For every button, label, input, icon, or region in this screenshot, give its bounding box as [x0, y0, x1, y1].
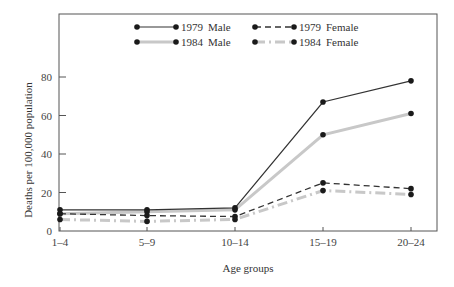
legend-sex: Male — [208, 21, 231, 33]
legend-year: 1979 — [299, 21, 322, 33]
series-line-1979-male — [60, 81, 411, 210]
line-chart: 020406080 1–45–910–1415–1920–24 1979Male… — [0, 0, 454, 287]
x-tick-label: 15–19 — [309, 236, 337, 248]
x-tick-label: 5–9 — [139, 236, 156, 248]
data-point-marker — [144, 219, 150, 225]
legend-marker — [134, 39, 140, 45]
x-tick-label: 1–4 — [52, 236, 69, 248]
legend-year: 1984 — [181, 36, 204, 48]
legend-year: 1984 — [299, 36, 322, 48]
y-tick-label: 40 — [41, 148, 53, 160]
legend-item-1979-female: 1979Female — [252, 21, 358, 33]
legend-year: 1979 — [181, 21, 204, 33]
x-tick-label: 20–24 — [397, 236, 425, 248]
y-axis-title: Deaths per 100,000 population — [22, 82, 34, 218]
legend-marker — [134, 24, 140, 30]
legend-marker — [252, 39, 258, 45]
legend-marker — [252, 24, 258, 30]
data-point-marker — [320, 180, 326, 186]
x-axis: 1–45–910–1415–1920–24 — [52, 227, 426, 248]
series-line-1984-male — [60, 114, 411, 214]
y-tick-label: 60 — [41, 110, 53, 122]
data-point-marker — [320, 132, 326, 138]
y-tick-label: 80 — [41, 71, 53, 83]
data-point-marker — [408, 186, 414, 192]
data-point-marker — [320, 188, 326, 194]
legend-marker — [291, 39, 297, 45]
legend-marker — [291, 24, 297, 30]
data-point-marker — [57, 217, 63, 223]
legend-item-1984-female: 1984Female — [252, 36, 358, 48]
data-point-marker — [408, 78, 414, 84]
data-point-marker — [232, 207, 238, 213]
legend-sex: Female — [326, 21, 358, 33]
legend-item-1984-male: 1984Male — [134, 36, 231, 48]
legend-marker — [173, 39, 179, 45]
data-point-marker — [144, 213, 150, 219]
data-point-marker — [320, 99, 326, 105]
data-series — [57, 78, 414, 224]
legend-sex: Female — [326, 36, 358, 48]
data-point-marker — [408, 111, 414, 117]
y-tick-label: 20 — [41, 187, 53, 199]
legend-item-1979-male: 1979Male — [134, 21, 231, 33]
x-axis-title: Age groups — [222, 262, 273, 274]
data-point-marker — [57, 211, 63, 217]
legend-sex: Male — [208, 36, 231, 48]
legend: 1979Male1979Female1984Male1984Female — [134, 21, 358, 48]
data-point-marker — [232, 217, 238, 223]
data-point-marker — [408, 192, 414, 198]
x-tick-label: 10–14 — [221, 236, 249, 248]
legend-marker — [173, 24, 179, 30]
